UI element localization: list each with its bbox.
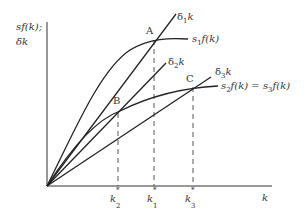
delta1k-label: δ1k [177,12,194,25]
s2fk-curve [47,86,218,186]
delta2k-label: δ2k [168,57,185,70]
delta3k-line [47,77,211,186]
tick-k1-star: k*1 [147,194,158,207]
tick-k3-star: k*3 [185,194,196,207]
s1fk-label: s1f(k) [192,34,219,47]
s2fk-s3fk-label: s2f(k) = s3f(k) [221,81,290,94]
delta3k-label: δ3k [215,67,232,80]
delta2k-line [47,63,166,186]
x-axis-label: k [262,193,268,203]
tick-k2-star: k*2 [110,194,121,207]
point-c-label: C [186,74,194,84]
y-axis-label-line2: δk [16,37,28,47]
point-a-label: A [146,26,153,36]
point-b-label: B [113,96,120,106]
y-axis-label-line1: sf(k); [16,22,42,32]
